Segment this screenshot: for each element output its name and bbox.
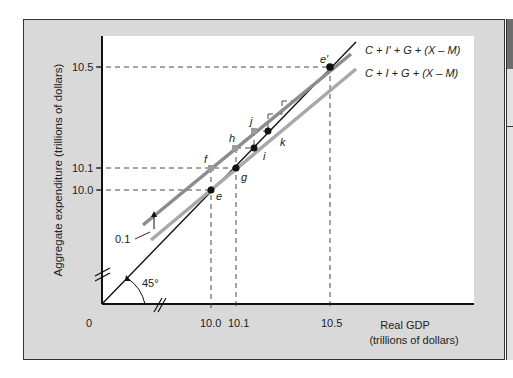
- x-tick-0: 0: [86, 317, 92, 329]
- point-h: [232, 145, 238, 151]
- x-axis-label-line2: (trillions of dollars): [369, 334, 458, 346]
- legend-lower-line: C + I + G + (X – M): [365, 67, 459, 79]
- point-f: [208, 165, 214, 171]
- shift-label: 0.1: [115, 233, 130, 245]
- point-i: [251, 145, 258, 152]
- label-e: e: [216, 190, 222, 202]
- x-tick-10-5: 10.5: [321, 317, 342, 329]
- point-k: [265, 128, 272, 135]
- y-tick-10-1: 10.1: [72, 162, 93, 174]
- x-axis-label-line1: Real GDP: [380, 319, 430, 331]
- y-tick-10-0: 10.0: [72, 184, 93, 196]
- chart-svg: 10.5 10.1 10.0 0 10.0 10.1 10.5 Real GDP…: [0, 0, 513, 378]
- x-tick-10-0: 10.0: [200, 317, 221, 329]
- point-g: [233, 165, 240, 172]
- label-h: h: [229, 132, 235, 144]
- point-e: [208, 187, 215, 194]
- label-e-prime: e': [320, 53, 329, 65]
- point-j: [251, 128, 257, 134]
- label-k: k: [280, 136, 286, 148]
- legend-upper-line: C + I' + G + (X – M): [365, 44, 461, 56]
- y-tick-10-5: 10.5: [72, 61, 93, 73]
- x-tick-10-1: 10.1: [228, 317, 249, 329]
- angle-label: 45°: [142, 277, 159, 289]
- label-g: g: [241, 171, 248, 183]
